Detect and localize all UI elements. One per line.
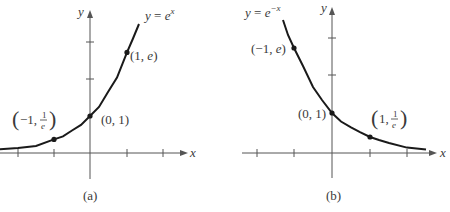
x-axis-label: x bbox=[189, 145, 196, 160]
x-axis-arrow-icon bbox=[180, 150, 188, 156]
y-axis-arrow-icon bbox=[329, 7, 335, 15]
point-neg1-inv-e bbox=[51, 137, 56, 142]
panel-b: x y y = e−x (−1, e) (0, 1) ( 1, 1 e bbox=[242, 0, 446, 203]
svg-text:): ) bbox=[400, 105, 407, 130]
svg-text:1: 1 bbox=[42, 110, 47, 120]
svg-text:−1,: −1, bbox=[20, 112, 37, 127]
svg-text:(: ( bbox=[371, 105, 378, 130]
point-label-1-inv-e: ( 1, 1 e ) bbox=[371, 105, 407, 130]
point-label-0-1: (0, 1) bbox=[101, 112, 129, 127]
exponential-graphs-figure: x y y = ex (1, e) (0, 1) ( −1, 1 e bbox=[0, 0, 450, 212]
point-label-neg1-inv-e: ( −1, 1 e ) bbox=[12, 106, 56, 131]
svg-text:1: 1 bbox=[393, 109, 398, 119]
curve-exp-neg-x bbox=[283, 20, 426, 150]
svg-text:(: ( bbox=[12, 106, 19, 131]
point-label-0-1: (0, 1) bbox=[298, 106, 326, 121]
svg-text:): ) bbox=[49, 106, 56, 131]
point-label-neg1-e: (−1, e) bbox=[251, 41, 286, 56]
point-label-1-e: (1, e) bbox=[130, 48, 157, 63]
svg-text:1,: 1, bbox=[379, 111, 389, 126]
curve-exp-x bbox=[0, 24, 139, 149]
x-axis-arrow-icon bbox=[429, 150, 437, 156]
function-label-b: y = e−x bbox=[243, 3, 280, 20]
svg-text:e: e bbox=[41, 121, 45, 131]
x-axis-label: x bbox=[439, 145, 446, 160]
caption-b: (b) bbox=[326, 188, 341, 203]
y-axis-label: y bbox=[319, 0, 327, 15]
y-axis-arrow-icon bbox=[87, 10, 93, 18]
panel-a: x y y = ex (1, e) (0, 1) ( −1, 1 e bbox=[0, 4, 196, 203]
point-1-e bbox=[124, 50, 129, 55]
point-0-1 bbox=[87, 113, 92, 118]
point-neg1-e bbox=[291, 45, 296, 50]
caption-a: (a) bbox=[83, 188, 97, 203]
y-axis-label: y bbox=[76, 4, 84, 19]
point-0-1 bbox=[329, 110, 334, 115]
svg-text:e: e bbox=[392, 120, 396, 130]
function-label-a: y = ex bbox=[143, 6, 174, 23]
point-1-inv-e bbox=[367, 134, 372, 139]
